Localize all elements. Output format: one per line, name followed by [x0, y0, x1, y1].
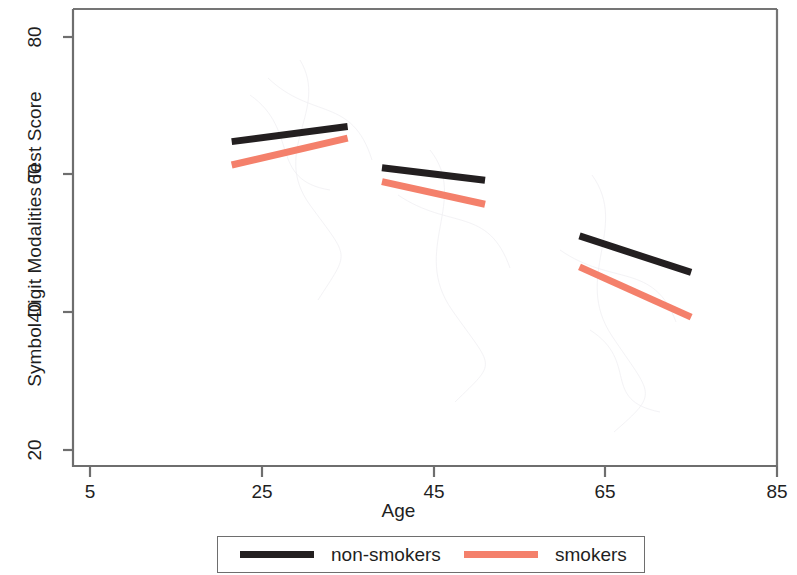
trend-line-smokers-older	[579, 267, 691, 317]
y-tick-label-60: 60	[24, 152, 46, 196]
legend-label-non-smokers: non-smokers	[331, 544, 441, 566]
data-series-layer	[232, 126, 691, 317]
y-tick-label-20: 20	[24, 428, 46, 472]
y-tick-label-80: 80	[24, 15, 46, 59]
y-tick-label-40: 40	[24, 290, 46, 334]
legend-entry-non-smokers: non-smokers	[240, 537, 441, 572]
x-tick-label-65: 65	[583, 481, 627, 503]
axis-frame	[73, 9, 777, 466]
trend-line-non-smokers-middle	[382, 168, 485, 180]
trend-line-smokers-middle	[382, 182, 485, 205]
x-tick-label-5: 5	[68, 481, 112, 503]
x-axis-title: Age	[0, 500, 797, 522]
y-axis-title: Symbol Digit Modalities Test Score	[24, 9, 46, 469]
x-tick-label-45: 45	[412, 481, 456, 503]
legend-swatch-non-smokers	[240, 551, 314, 558]
legend: non-smokers smokers	[217, 536, 645, 573]
trend-line-non-smokers-older	[579, 236, 691, 272]
x-axis-ticks	[90, 466, 777, 477]
chart-figure: Symbol Digit Modalities Test Score Age 8…	[0, 0, 797, 575]
x-tick-label-25: 25	[240, 481, 284, 503]
y-axis-ticks	[63, 37, 73, 450]
legend-swatch-smokers	[464, 551, 538, 558]
legend-entry-smokers: smokers	[464, 537, 627, 572]
x-tick-label-85: 85	[755, 481, 797, 503]
plot-area	[0, 0, 797, 575]
legend-label-smokers: smokers	[555, 544, 627, 566]
